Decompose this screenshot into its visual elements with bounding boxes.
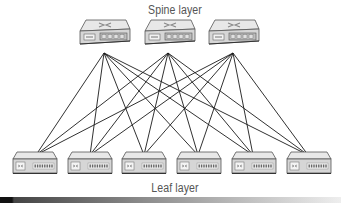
leaf-switch xyxy=(13,152,57,174)
connection-lines xyxy=(36,53,308,155)
link-spine-2-leaf-5 xyxy=(168,53,253,155)
link-spine-3-leaf-6 xyxy=(233,53,308,155)
port-strip-icon xyxy=(142,163,163,169)
port-bank-icon xyxy=(100,33,127,40)
spine-switch xyxy=(209,20,259,44)
spine-switch xyxy=(145,20,195,44)
link-spine-3-leaf-2 xyxy=(90,53,233,155)
leaf-layer-label: Leaf layer xyxy=(144,181,206,195)
link-spine-3-leaf-5 xyxy=(233,53,253,155)
link-spine-1-leaf-1 xyxy=(36,53,104,155)
link-spine-1-leaf-5 xyxy=(104,53,253,155)
spine-leaf-diagram xyxy=(0,0,341,203)
port-strip-icon xyxy=(88,163,109,169)
switch-arrows-icon xyxy=(16,162,25,170)
spine-switch xyxy=(80,20,130,44)
port-strip-icon xyxy=(33,163,54,169)
link-spine-1-leaf-4 xyxy=(104,53,198,155)
switch-arrows-icon xyxy=(125,162,134,170)
leaf-switch-group xyxy=(13,152,331,174)
leaf-switch xyxy=(122,152,166,174)
leaf-switch xyxy=(177,152,221,174)
port-strip-icon xyxy=(307,163,328,169)
leaf-switch xyxy=(68,152,112,174)
link-spine-1-leaf-3 xyxy=(104,53,144,155)
leaf-switch xyxy=(287,152,331,174)
bottom-divider-bar xyxy=(0,197,341,203)
port-strip-icon xyxy=(197,163,218,169)
leaf-switch xyxy=(232,152,276,174)
switch-arrows-icon xyxy=(235,162,244,170)
port-bank-icon xyxy=(229,33,256,40)
spine-layer-label: Spine layer xyxy=(144,3,206,17)
switch-arrows-icon xyxy=(290,162,299,170)
spine-switch-group xyxy=(80,20,259,44)
switch-arrows-icon xyxy=(180,162,189,170)
link-spine-2-leaf-4 xyxy=(168,53,198,155)
switch-arrows-icon xyxy=(71,162,80,170)
port-strip-icon xyxy=(252,163,273,169)
port-bank-icon xyxy=(165,33,192,40)
